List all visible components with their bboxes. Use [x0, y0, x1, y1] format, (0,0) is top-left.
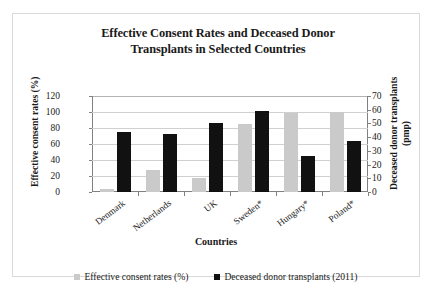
y-axis-left-tick [89, 192, 92, 193]
plot-area [92, 96, 368, 192]
y-axis-left-tick [89, 96, 92, 97]
y-axis-left-tick-label: 60 [30, 139, 60, 149]
x-axis-tick [230, 192, 231, 196]
bar-consent-rate [238, 124, 252, 192]
y-axis-right-tick-label: 70 [372, 91, 402, 101]
x-axis-tick [322, 192, 323, 196]
gridline [92, 112, 368, 113]
y-axis-right-tick [368, 165, 371, 166]
legend-swatch-icon [214, 274, 220, 280]
y-axis-left-tick-label: 80 [30, 123, 60, 133]
bar-consent-rate [284, 113, 298, 192]
gridline [92, 144, 368, 145]
chart-container: Effective Consent Rates and Deceased Don… [12, 13, 420, 277]
y-axis-left-tick-label: 120 [30, 91, 60, 101]
y-axis-right-tick [368, 96, 371, 97]
legend-item[interactable]: Deceased donor transplants (2011) [214, 271, 357, 282]
bar-donor-transplants [117, 132, 131, 192]
y-axis-right-tick-label: 60 [372, 105, 402, 115]
y-axis-right-tick [368, 110, 371, 111]
x-axis-category-label: UK [176, 198, 219, 234]
x-axis-category-label: Hungary* [268, 198, 311, 234]
y-axis-left-tick [89, 128, 92, 129]
y-axis-left-tick [89, 160, 92, 161]
bar-consent-rate [330, 112, 344, 192]
y-axis-right-tick-label: 20 [372, 160, 402, 170]
bar-donor-transplants [255, 111, 269, 192]
y-axis-right-tick-label: 50 [372, 118, 402, 128]
x-axis-category-label: Denmark [84, 198, 127, 234]
y-axis-right-tick-label: 40 [372, 132, 402, 142]
x-axis-tick [138, 192, 139, 196]
y-axis-left-tick [89, 112, 92, 113]
bar-donor-transplants [347, 141, 361, 192]
y-axis-left-tick-label: 20 [30, 171, 60, 181]
x-axis-category-label: Poland* [314, 198, 357, 234]
legend-swatch-icon [74, 274, 80, 280]
x-axis-tick [276, 192, 277, 196]
y-axis-right-tick [368, 123, 371, 124]
legend-label: Effective consent rates (%) [84, 271, 188, 282]
chart-title: Effective Consent Rates and Deceased Don… [53, 25, 383, 57]
x-axis-title: Countries [13, 236, 419, 247]
y-axis-left-tick-label: 0 [30, 187, 60, 197]
legend-item[interactable]: Effective consent rates (%) [74, 271, 188, 282]
bar-consent-rate [192, 178, 206, 192]
gridline [92, 176, 368, 177]
gridline [92, 160, 368, 161]
y-axis-right-tick-label: 30 [372, 146, 402, 156]
x-axis-category-label: Sweden* [222, 198, 265, 234]
bar-donor-transplants [163, 134, 177, 192]
y-axis-right-tick [368, 137, 371, 138]
x-axis-tick [368, 192, 369, 196]
bar-consent-rate [100, 189, 114, 192]
y-axis-right-tick-label: 10 [372, 173, 402, 183]
y-axis-right-tick-label: 0 [372, 187, 402, 197]
y-axis-left-tick [89, 176, 92, 177]
y-axis-right-tick [368, 151, 371, 152]
chart-title-line-2: Transplants in Selected Countries [53, 41, 383, 57]
x-axis-tick [184, 192, 185, 196]
chart-title-line-1: Effective Consent Rates and Deceased Don… [53, 25, 383, 41]
x-axis-category-label: Netherlands [130, 198, 173, 234]
y-axis-left-tick-label: 40 [30, 155, 60, 165]
y-axis-left-tick [89, 144, 92, 145]
legend-label: Deceased donor transplants (2011) [224, 271, 357, 282]
bar-consent-rate [146, 170, 160, 192]
gridline [92, 128, 368, 129]
bar-donor-transplants [209, 123, 223, 192]
bar-donor-transplants [301, 156, 315, 192]
y-axis-left-tick-label: 100 [30, 107, 60, 117]
chart-legend: Effective consent rates (%)Deceased dono… [13, 271, 419, 282]
y-axis-right-tick [368, 178, 371, 179]
